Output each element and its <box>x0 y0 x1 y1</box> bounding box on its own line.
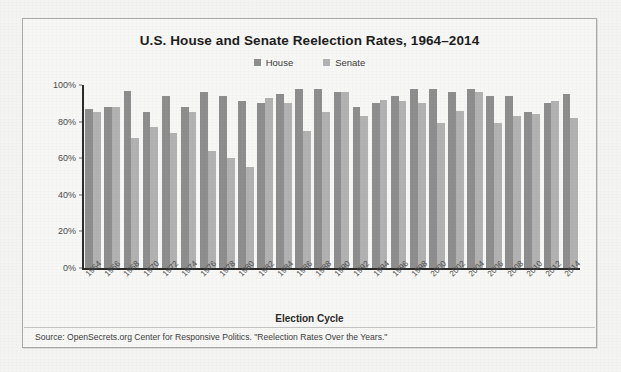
x-axis-label-cell: 2000 <box>428 270 447 310</box>
bar-group <box>351 85 370 268</box>
bar-group <box>504 85 523 268</box>
bar-house <box>372 103 380 268</box>
source-divider <box>24 327 595 328</box>
bar-group <box>465 85 484 268</box>
bar-house <box>257 103 265 268</box>
bar-house <box>219 96 227 268</box>
x-axis-label-cell: 1966 <box>103 270 122 310</box>
bar-group <box>408 85 427 268</box>
bar-group <box>103 85 122 268</box>
source-note: Source: OpenSecrets.org Center for Respo… <box>35 332 387 342</box>
bar-house <box>410 89 418 268</box>
bar-group <box>141 85 160 268</box>
bar-senate <box>112 107 120 268</box>
x-axis-label-cell: 1994 <box>371 270 390 310</box>
bar-group <box>294 85 313 268</box>
bar-senate <box>532 114 540 268</box>
bar-house <box>276 94 284 268</box>
x-axis-label-cell: 1974 <box>179 270 198 310</box>
chart-legend: House Senate <box>23 57 596 68</box>
x-axis-label-cell: 1998 <box>409 270 428 310</box>
bar-senate <box>227 158 235 268</box>
y-axis-tick-label: 20% <box>58 226 76 236</box>
x-axis-label-cell: 1982 <box>256 270 275 310</box>
bar-group <box>542 85 561 268</box>
x-axis-label-cell: 1988 <box>313 270 332 310</box>
x-axis-label-cell: 1970 <box>141 270 160 310</box>
bar-group <box>332 85 351 268</box>
x-axis-label-cell: 1992 <box>352 270 371 310</box>
x-axis-label-cell: 1986 <box>294 270 313 310</box>
chart-frame: U.S. House and Senate Reelection Rates, … <box>22 18 597 348</box>
bar-group-container <box>84 85 580 268</box>
bar-senate <box>150 127 158 268</box>
plot-area: 0%20%40%60%80%100% <box>82 85 580 268</box>
bar-senate <box>189 112 197 268</box>
bar-group <box>255 85 274 268</box>
bar-senate <box>494 123 502 268</box>
bar-house <box>104 107 112 268</box>
bar-group <box>446 85 465 268</box>
bar-senate <box>380 100 388 268</box>
bar-house <box>143 112 151 268</box>
bar-house <box>200 92 208 268</box>
bar-house <box>124 91 132 269</box>
bar-group <box>236 85 255 268</box>
bar-house <box>334 92 342 268</box>
legend-swatch-senate-icon <box>323 59 330 66</box>
y-axis-tick-label: 40% <box>58 190 76 200</box>
legend-label-house: House <box>266 57 293 68</box>
bar-senate <box>570 118 578 268</box>
bar-group <box>122 85 141 268</box>
bar-house <box>429 89 437 268</box>
x-axis-label-cell: 2012 <box>543 270 562 310</box>
bar-house <box>353 107 361 268</box>
bar-group <box>485 85 504 268</box>
bar-senate <box>418 103 426 268</box>
bar-senate <box>322 112 330 268</box>
bar-house <box>162 96 170 268</box>
bar-group <box>84 85 103 268</box>
bar-senate <box>131 138 139 268</box>
bar-house <box>391 96 399 268</box>
x-axis-label-cell: 1978 <box>218 270 237 310</box>
bar-senate <box>437 123 445 268</box>
x-axis-label-cell: 1980 <box>237 270 256 310</box>
bar-house <box>486 96 494 268</box>
bar-group <box>179 85 198 268</box>
bar-senate <box>513 116 521 268</box>
bar-senate <box>456 111 464 268</box>
legend-item-house: House <box>254 57 293 68</box>
bar-group <box>523 85 542 268</box>
bar-senate <box>551 101 559 268</box>
y-axis-tick-label: 60% <box>58 153 76 163</box>
y-axis-tick-label: 100% <box>53 80 76 90</box>
bar-house <box>238 101 246 268</box>
bar-house <box>181 107 189 268</box>
bar-senate <box>341 92 349 268</box>
bar-senate <box>284 103 292 268</box>
bar-house <box>563 94 571 268</box>
bar-senate <box>475 92 483 268</box>
bar-group <box>389 85 408 268</box>
page-title: U.S. House and Senate Reelection Rates, … <box>23 33 596 48</box>
x-axis-label-cell: 1964 <box>84 270 103 310</box>
bar-senate <box>93 112 101 268</box>
bar-senate <box>265 98 273 268</box>
bar-group <box>217 85 236 268</box>
x-axis-label-cell: 2010 <box>524 270 543 310</box>
legend-item-senate: Senate <box>323 57 365 68</box>
x-axis-label-cell: 1996 <box>390 270 409 310</box>
bar-house <box>524 112 532 268</box>
y-axis-tick-mark <box>79 268 82 269</box>
x-axis-label-cell: 2006 <box>486 270 505 310</box>
bar-group <box>160 85 179 268</box>
x-axis-label-cell: 1976 <box>199 270 218 310</box>
bar-house <box>85 109 93 268</box>
y-axis-tick-mark <box>79 194 82 195</box>
y-axis-tick-label: 0% <box>63 263 76 273</box>
bar-house <box>467 89 475 268</box>
bar-group <box>275 85 294 268</box>
bar-house <box>448 92 456 268</box>
x-axis-label-cell: 2008 <box>505 270 524 310</box>
